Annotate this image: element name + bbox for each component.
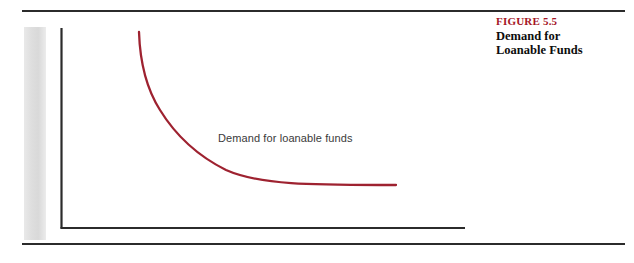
demand-curve [139,32,396,185]
demand-curve-label: Demand for loanable funds [218,132,353,144]
figure-bottom-rule [22,243,625,245]
